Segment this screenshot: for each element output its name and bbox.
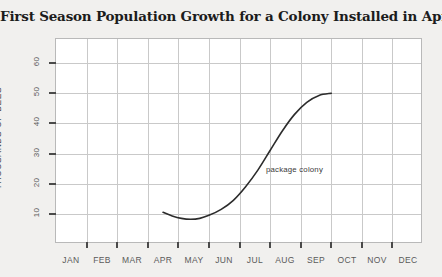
y-axis-tick [49, 62, 56, 64]
y-axis-tick-label: 40 [32, 112, 41, 132]
y-axis-tick [49, 92, 56, 94]
y-axis-title: THOUSANDS OF BEES [0, 58, 3, 218]
bee-population-chart: First Season Population Growth for a Col… [0, 0, 442, 277]
x-axis-tick-label: DEC [388, 255, 428, 265]
y-axis-tick [49, 183, 56, 185]
population-curve [56, 39, 423, 244]
y-axis-tick-label: 30 [32, 143, 41, 163]
y-axis-tick-label: 10 [32, 203, 41, 223]
chart-title: First Season Population Growth for a Col… [0, 8, 442, 24]
y-axis-tick [49, 122, 56, 124]
y-axis-tick [49, 213, 56, 215]
y-axis-tick-label: 50 [32, 82, 41, 102]
package-colony-line [163, 93, 331, 219]
plot-area: 102030405060 JANFEBMARAPRMAYJUNJULAUGSEP… [55, 38, 422, 243]
series-annotation-package-colony: package colony [266, 165, 323, 174]
y-axis-tick [49, 153, 56, 155]
y-axis-tick-label: 60 [32, 52, 41, 72]
y-axis-tick-label: 20 [32, 173, 41, 193]
